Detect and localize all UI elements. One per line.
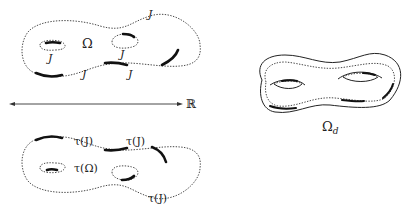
double-arc-right	[383, 84, 393, 98]
reflected-arc-tau-j-top-left	[36, 137, 62, 140]
double-label: Ωd	[322, 119, 339, 136]
reflected-right-hole-arc	[122, 176, 134, 180]
left-hole-arc-j	[46, 42, 60, 43]
boundary-arc-j-bottom-middle	[105, 63, 127, 65]
top-surface: Ω J J J J J	[22, 8, 200, 81]
reflected-left-hole-dotted	[40, 163, 65, 173]
double-outer-surface	[260, 53, 401, 112]
j-label-left-hole: J	[46, 52, 53, 65]
schottky-double-diagram: Ω J J J J J ℝ τ(Ω) τ(J) τ(J) τ(J)	[0, 0, 412, 215]
omega-label: Ω	[82, 36, 93, 51]
tau-j-label-top-right: τ(J)	[126, 135, 145, 148]
j-label-top-right: J	[146, 8, 153, 21]
outer-boundary-dotted	[22, 14, 200, 76]
double-right-handle-arc	[363, 73, 375, 75]
reflected-right-hole-dotted	[112, 166, 138, 180]
j-label-right-hole: J	[118, 48, 125, 61]
arrow-left-icon	[9, 102, 15, 106]
reflected-boundary-dotted	[22, 137, 200, 199]
tau-j-label-top-left: τ(J)	[74, 135, 93, 148]
right-hole-arc-j	[123, 34, 134, 37]
double-arc-bottom-middle	[342, 100, 364, 101]
double-label-main: Ω	[322, 119, 333, 134]
double-seam-dotted	[265, 62, 395, 106]
tau-omega-label: τ(Ω)	[74, 162, 98, 175]
reflected-arc-tau-j-right	[152, 147, 166, 162]
real-line-label: ℝ	[186, 97, 197, 111]
real-axis: ℝ	[9, 97, 197, 111]
arrow-right-icon	[177, 102, 183, 106]
double-label-subscript: d	[333, 126, 339, 136]
j-label-bottom-middle: J	[80, 68, 87, 81]
tau-j-label-bottom-right: τ(J)	[148, 192, 167, 205]
reflected-arc-tau-j-top-middle	[105, 148, 127, 150]
reflected-left-hole-arc	[47, 169, 57, 170]
double-left-handle-arc	[282, 80, 297, 81]
double-left-handle-bottom	[274, 84, 302, 89]
boundary-arc-j-right	[162, 50, 178, 65]
boundary-arc-j-bottom-left	[36, 73, 62, 76]
bottom-surface: τ(Ω) τ(J) τ(J) τ(J)	[22, 135, 200, 205]
double-right-handle-bottom	[343, 77, 378, 82]
j-label-bottom-right: J	[126, 68, 133, 81]
double-surface: Ωd	[260, 53, 401, 136]
